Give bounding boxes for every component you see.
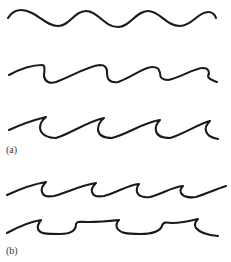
curling-wave [9,117,218,139]
wave-drawings [0,0,231,262]
wave-figure: (a) (b) [0,0,231,262]
flat-trough-breaking-wave [7,219,218,236]
asymmetric-wave [9,65,217,83]
panel-label-b: (b) [6,246,18,256]
panel-label-a: (a) [6,145,17,155]
sinusoidal-wave [8,10,216,27]
steep-breaking-wave [7,182,226,197]
